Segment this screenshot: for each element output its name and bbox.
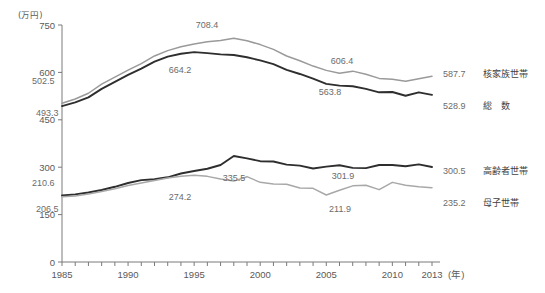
- y-axis-tick-label-300: 300: [39, 162, 55, 173]
- series-end-value-2: 300.5: [443, 166, 466, 176]
- series-lines: [62, 38, 432, 197]
- y-axis-tick-label-0: 0: [50, 257, 55, 268]
- household-income-line-chart: (万円) 0150300450600750 198519901995200020…: [0, 0, 545, 293]
- inline-data-label-4: 606.4: [331, 56, 354, 66]
- inline-data-label-1: 493.3: [36, 108, 59, 118]
- y-axis-tick-label-750: 750: [39, 20, 55, 31]
- x-axis-tick-label-1990: 1990: [118, 269, 139, 280]
- inline-data-label-8: 335.5: [223, 173, 246, 183]
- inline-data-label-6: 210.6: [32, 178, 55, 188]
- inline-data-label-11: 211.9: [329, 204, 351, 214]
- inline-data-label-5: 563.8: [319, 87, 342, 97]
- inline-data-labels: 502.5493.3708.4664.2606.4563.8210.6206.5…: [32, 20, 354, 214]
- inline-data-label-7: 206.5: [36, 204, 59, 214]
- x-axis-tick-label-2013: 2013: [421, 269, 442, 280]
- series-end-name-3: 母子世帯: [483, 197, 519, 208]
- x-axis-tick-label-2005: 2005: [316, 269, 337, 280]
- inline-data-label-10: 301.9: [332, 171, 355, 181]
- inline-data-label-0: 502.5: [32, 76, 55, 86]
- series-end-name-2: 高齢者世帯: [483, 165, 528, 176]
- y-axis-unit-label: (万円): [18, 10, 43, 20]
- inline-data-label-9: 274.2: [169, 192, 192, 202]
- chart-canvas: (万円) 0150300450600750 198519901995200020…: [0, 0, 545, 293]
- series-line-1: [62, 52, 432, 106]
- x-axis-tick-label-1985: 1985: [51, 269, 72, 280]
- x-axis-tick-label-2000: 2000: [250, 269, 271, 280]
- series-end-labels: 587.7核家族世帯528.9総 数300.5高齢者世帯235.2母子世帯: [443, 68, 528, 208]
- series-end-name-0: 核家族世帯: [483, 68, 528, 79]
- series-end-value-3: 235.2: [443, 198, 466, 208]
- series-end-name-1: 総 数: [483, 100, 510, 111]
- x-axis-tick-label-1995: 1995: [184, 269, 205, 280]
- series-line-0: [62, 38, 432, 103]
- x-axis-unit-label: (年): [448, 269, 464, 280]
- series-end-value-1: 528.9: [443, 101, 466, 111]
- series-end-value-0: 587.7: [443, 69, 466, 79]
- y-axis-unit-group: (万円): [18, 10, 43, 20]
- y-axis: 0150300450600750: [39, 20, 62, 268]
- x-axis: 1985199019952000200520102013: [51, 262, 442, 280]
- inline-data-label-3: 664.2: [169, 65, 192, 75]
- inline-data-label-2: 708.4: [196, 20, 219, 30]
- x-axis-tick-label-2010: 2010: [382, 269, 403, 280]
